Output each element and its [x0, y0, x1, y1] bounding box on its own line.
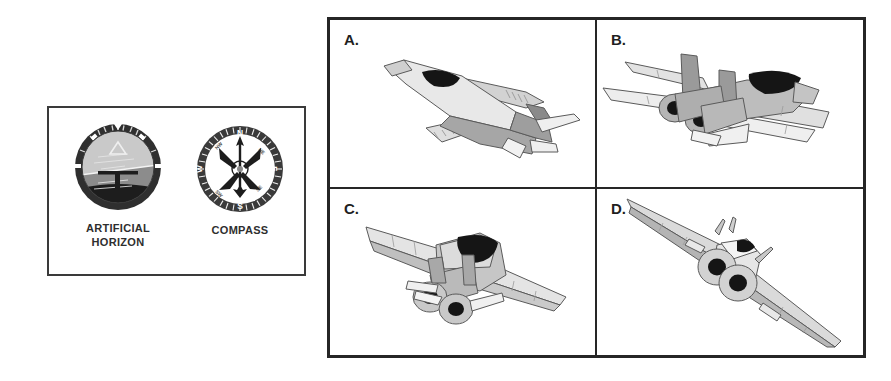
aircraft-option-c[interactable]: C. — [330, 189, 597, 355]
aircraft-option-d-label: D. — [611, 200, 626, 217]
artificial-horizon-instrument: ARTIFICIAL HORIZON — [63, 117, 173, 249]
aircraft-option-b[interactable]: B. — [597, 20, 863, 189]
artificial-horizon-label-line2: HORIZON — [92, 236, 145, 248]
artificial-horizon-label-line1: ARTIFICIAL — [86, 222, 150, 234]
compass-instrument: N E S W NW NE SE SW — [185, 119, 295, 237]
aircraft-option-a[interactable]: A. — [330, 20, 597, 189]
aircraft-option-b-label: B. — [611, 31, 626, 48]
compass-cardinal-e: E — [270, 166, 279, 172]
jet-aircraft-steep-bank-rear-view-icon — [597, 189, 863, 355]
artificial-horizon-gauge-icon — [68, 117, 168, 217]
compass-cardinal-s: S — [237, 201, 243, 211]
aircraft-option-a-label: A. — [344, 31, 359, 48]
jet-aircraft-twin-tail-rear-view-icon — [597, 20, 863, 187]
aircraft-option-d[interactable]: D. — [597, 189, 863, 355]
compass-label: COMPASS — [185, 223, 295, 237]
jet-aircraft-banking-top-rear-view-icon — [330, 20, 595, 187]
aircraft-option-c-label: C. — [344, 200, 359, 217]
instrument-panel: ARTIFICIAL HORIZON — [47, 106, 306, 276]
jet-aircraft-rear-quarter-view-icon — [330, 189, 595, 355]
compass-label-line1: COMPASS — [212, 224, 269, 236]
aircraft-grid: A. — [327, 17, 866, 358]
compass-cardinal-w: W — [195, 165, 204, 173]
compass-gauge-icon: N E S W NW NE SE SW — [190, 119, 290, 219]
artificial-horizon-label: ARTIFICIAL HORIZON — [63, 221, 173, 249]
